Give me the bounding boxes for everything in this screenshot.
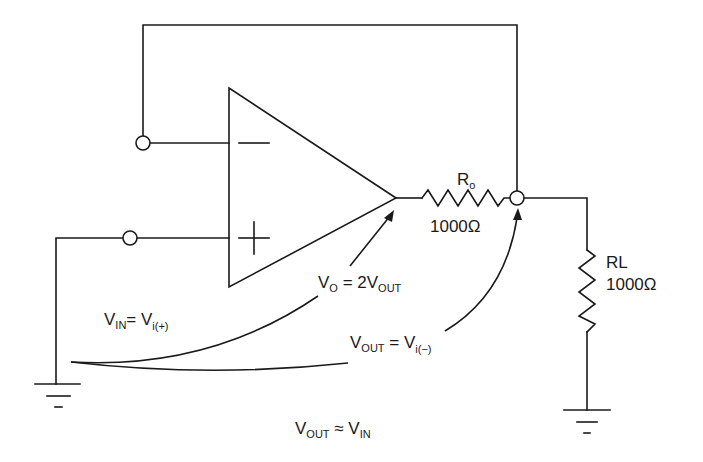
ground-icon-right bbox=[564, 410, 610, 433]
vin-equation: VIN= Vi(+) bbox=[104, 310, 169, 332]
feedback-wire bbox=[143, 25, 517, 191]
load-branch bbox=[524, 198, 595, 410]
output-node-terminal bbox=[510, 191, 524, 205]
vout-equation: VOUT = Vi(−) bbox=[350, 333, 432, 355]
arrow-head-icon bbox=[384, 210, 394, 222]
output-resistor-ro bbox=[396, 190, 510, 206]
plus-sign-icon bbox=[239, 222, 269, 254]
ground-icon-left bbox=[35, 384, 80, 407]
noninverting-input-terminal bbox=[123, 231, 137, 245]
arrow-head-icon bbox=[513, 208, 522, 220]
op-amp-circuit-diagram: Ro 1000Ω RL 1000Ω VO = 2VOUT VIN= Vi(+) … bbox=[0, 0, 703, 462]
result-equation: VOUT ≈ VIN bbox=[295, 419, 371, 440]
vo-equation: VO = 2VOUT bbox=[318, 273, 402, 294]
rl-label: RL bbox=[606, 253, 628, 272]
rl-value: 1000Ω bbox=[606, 275, 657, 294]
op-amp-symbol bbox=[229, 88, 396, 287]
ro-value: 1000Ω bbox=[430, 217, 481, 236]
ro-label: Ro bbox=[457, 170, 475, 191]
inverting-input-terminal bbox=[136, 136, 150, 150]
